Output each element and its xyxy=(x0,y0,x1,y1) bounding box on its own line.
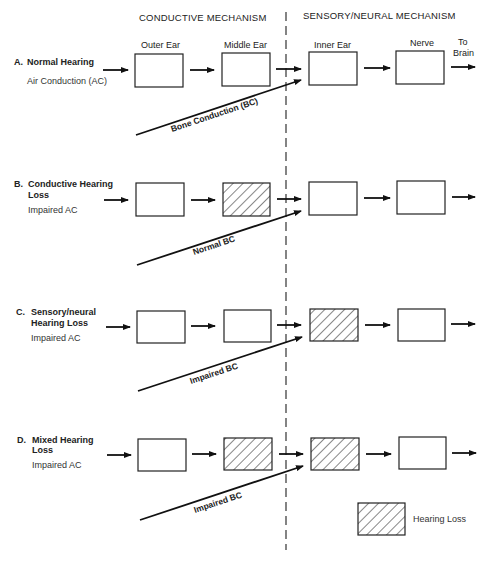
middle-ear-label: Middle Ear xyxy=(224,40,267,50)
outer-ear-box xyxy=(137,311,185,343)
bone-conduction-arrow-icon xyxy=(140,466,303,520)
row-d-title-line2: Loss xyxy=(32,445,53,455)
row-c-bc-label: Impaired BC xyxy=(188,361,239,386)
row-c-sensory-neural-hearing-loss: C. Sensory/neural Hearing Loss Impaired … xyxy=(16,307,475,391)
outer-ear-box xyxy=(138,439,186,471)
row-b-subtitle: Impaired AC xyxy=(28,205,78,215)
row-a-letter: A. xyxy=(14,57,23,67)
row-b-conductive-hearing-loss: B. Conductive Hearing Loss Impaired AC N… xyxy=(14,179,475,265)
bone-conduction-arrow-icon xyxy=(138,337,302,391)
middle-ear-box xyxy=(224,310,271,342)
legend: Hearing Loss xyxy=(358,503,467,535)
middle-ear-box-hearing-loss xyxy=(223,183,270,216)
row-b-bc-label: Normal BC xyxy=(191,234,236,257)
nerve-box xyxy=(396,51,444,84)
outer-ear-box xyxy=(136,183,184,216)
row-c-subtitle: Impaired AC xyxy=(31,333,81,343)
row-c-title-line1: Sensory/neural xyxy=(31,307,96,317)
row-a-bc-label: Bone Conduction (BC) xyxy=(169,96,259,134)
inner-ear-box xyxy=(309,52,357,85)
inner-ear-box xyxy=(309,182,357,215)
row-d-mixed-hearing-loss: D. Mixed Hearing Loss Impaired AC Impair… xyxy=(17,435,476,520)
row-c-title-line2: Hearing Loss xyxy=(31,318,88,328)
nerve-box xyxy=(398,309,445,341)
row-a-normal-hearing: A. Normal Hearing Air Conduction (AC) Bo… xyxy=(14,51,475,135)
to-brain-label-line2: Brain xyxy=(453,48,474,58)
outer-ear-box xyxy=(135,54,183,87)
hearing-loss-diagram: CONDUCTIVE MECHANISM SENSORY/NEURAL MECH… xyxy=(0,0,489,561)
row-d-title-line1: Mixed Hearing xyxy=(32,435,94,445)
middle-ear-box xyxy=(222,53,270,86)
row-c-letter: C. xyxy=(16,307,25,317)
nerve-label: Nerve xyxy=(410,38,434,48)
middle-ear-box-hearing-loss xyxy=(224,438,272,470)
row-b-title-line2: Loss xyxy=(28,190,49,200)
nerve-box xyxy=(397,181,445,214)
nerve-box xyxy=(399,437,446,469)
outer-ear-label: Outer Ear xyxy=(141,40,180,50)
inner-ear-label: Inner Ear xyxy=(314,40,351,50)
legend-label: Hearing Loss xyxy=(413,514,467,524)
sensory-neural-mechanism-header: SENSORY/NEURAL MECHANISM xyxy=(303,10,456,21)
row-a-title: Normal Hearing xyxy=(27,57,94,67)
inner-ear-box-hearing-loss xyxy=(311,438,359,470)
inner-ear-box-hearing-loss xyxy=(310,309,358,341)
conductive-mechanism-header: CONDUCTIVE MECHANISM xyxy=(139,12,267,23)
row-d-subtitle: Impaired AC xyxy=(32,460,82,470)
to-brain-label-line1: To xyxy=(458,37,468,47)
row-a-subtitle: Air Conduction (AC) xyxy=(27,76,107,86)
legend-hatch-swatch xyxy=(358,503,405,535)
row-d-letter: D. xyxy=(17,435,26,445)
row-b-letter: B. xyxy=(14,179,23,189)
row-b-title-line1: Conductive Hearing xyxy=(28,179,113,189)
